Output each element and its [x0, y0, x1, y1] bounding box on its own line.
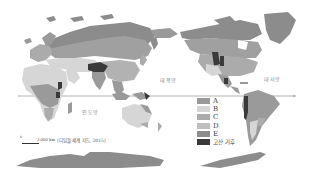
- legend-swatch-d: [197, 123, 210, 129]
- legend-item-e: E: [197, 130, 235, 138]
- legend-item-c: C: [197, 113, 235, 121]
- legend-label-c: C: [213, 113, 218, 121]
- legend-swatch-e: [197, 131, 210, 137]
- legend-label-d: D: [213, 122, 219, 130]
- map-source: (디딤돌 세계 지도, 2015): [57, 137, 106, 143]
- legend-item-highland: 고산 기후: [197, 138, 235, 146]
- legend-item-d: D: [197, 122, 235, 130]
- legend-swatch-b: [197, 106, 210, 112]
- scale-distance: 3,000 km: [37, 137, 55, 142]
- legend-label-b: B: [213, 105, 218, 113]
- atlantic-ocean-label: 대서양: [264, 75, 281, 82]
- oceania: [112, 92, 162, 132]
- legend-item-b: B: [197, 105, 235, 113]
- climate-legend: A B C D E 고산 기후: [197, 97, 235, 146]
- scale-zero: 0: [20, 135, 22, 139]
- legend-swatch-c: [197, 114, 210, 120]
- legend-item-a: A: [197, 97, 235, 105]
- world-climate-map: [0, 0, 314, 181]
- africa: [22, 64, 72, 122]
- south-america: [242, 90, 280, 146]
- legend-label-highland: 고산 기후: [213, 138, 235, 146]
- antarctica: [16, 152, 164, 168]
- legend-swatch-a: [197, 98, 210, 104]
- pacific-ocean-label: 태평양: [160, 76, 177, 83]
- antarctica-east: [200, 152, 266, 168]
- scale-line: 0: [22, 138, 39, 144]
- legend-swatch-highland: [197, 139, 210, 145]
- legend-label-a: A: [213, 97, 218, 105]
- indian-ocean-label: 인도양: [82, 108, 99, 115]
- legend-label-e: E: [213, 130, 218, 138]
- scale-bar: 0 3,000 km (디딤돌 세계 지도, 2015): [22, 137, 106, 144]
